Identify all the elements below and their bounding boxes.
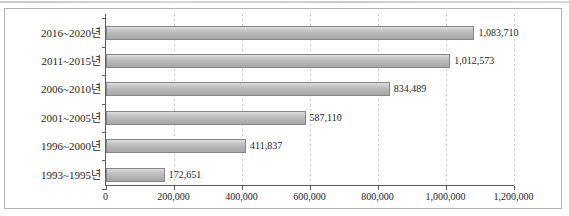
category-label: 1993~1995년 — [7, 168, 101, 182]
y-axis-tick — [102, 47, 106, 48]
x-axis-tick — [242, 186, 243, 190]
value-label: 834,489 — [394, 82, 427, 96]
gridline — [242, 14, 243, 185]
category-label: 2006~2010년 — [7, 82, 101, 96]
y-axis-tick — [102, 18, 106, 19]
y-axis-tick — [102, 132, 106, 133]
gridline — [514, 14, 515, 185]
value-label: 172,651 — [169, 168, 202, 182]
y-axis-tick — [102, 75, 106, 76]
bar-1 — [106, 54, 450, 68]
bar-2 — [106, 82, 390, 96]
x-axis-tick — [446, 186, 447, 190]
x-axis-tick — [174, 186, 175, 190]
cropped-content-artifact-line — [0, 1, 569, 3]
y-axis-tick — [102, 104, 106, 105]
chart-frame: 1,083,7101,012,573834,489587,110411,8371… — [4, 8, 562, 209]
y-axis-tick — [102, 160, 106, 161]
x-tick-label: 1,200,000 — [472, 191, 556, 202]
gridline — [446, 14, 447, 185]
category-label: 2001~2005년 — [7, 111, 101, 125]
x-axis-tick — [378, 186, 379, 190]
bar-4 — [106, 139, 246, 153]
value-label: 1,012,573 — [454, 54, 494, 68]
value-label: 411,837 — [250, 139, 282, 153]
gridline — [378, 14, 379, 185]
category-label: 1996~2000년 — [7, 139, 101, 153]
bar-5 — [106, 168, 165, 182]
bar-0 — [106, 26, 474, 40]
category-label: 2011~2015년 — [7, 54, 101, 68]
x-axis-tick — [514, 186, 515, 190]
plot-area: 1,083,7101,012,573834,489587,110411,8371… — [105, 14, 514, 186]
category-label: 2016~2020년 — [7, 26, 101, 40]
value-label: 587,110 — [310, 111, 342, 125]
y-axis-tick — [102, 189, 106, 190]
x-axis-tick — [310, 186, 311, 190]
gridline — [174, 14, 175, 185]
gridline — [310, 14, 311, 185]
value-label: 1,083,710 — [478, 26, 518, 40]
screenshot-root: { "chart_data": { "type": "bar", "orient… — [0, 0, 569, 216]
bar-3 — [106, 111, 306, 125]
